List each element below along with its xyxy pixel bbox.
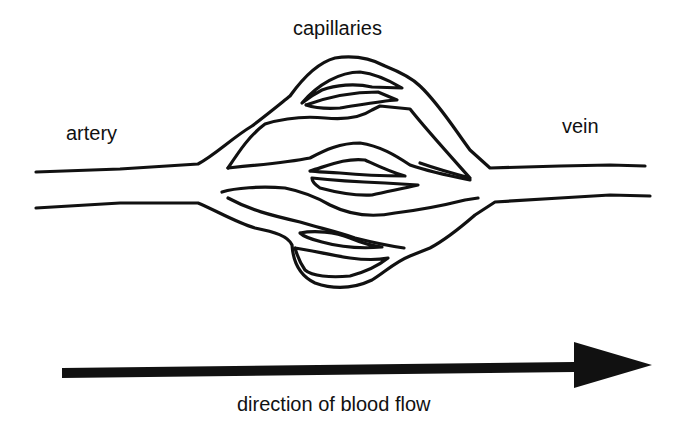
- capillary-diagram: capillaries artery vein direction of blo…: [0, 0, 681, 431]
- arrow-icon: [0, 0, 681, 431]
